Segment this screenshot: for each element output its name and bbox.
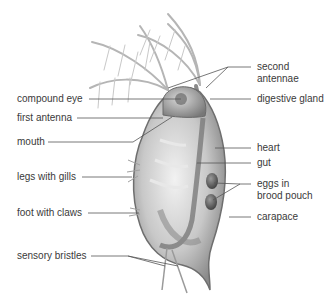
label-heart: heart [257,142,280,154]
label-eggs-line2: brood pouch [257,190,313,202]
label-mouth: mouth [17,136,45,148]
label-eggs-in-brood-pouch: eggs in brood pouch [257,178,313,202]
label-compound-eye: compound eye [17,93,83,105]
label-second-antennae-line1: second [257,61,299,73]
label-first-antenna: first antenna [17,112,72,124]
label-carapace: carapace [257,211,298,223]
label-gut: gut [257,157,271,169]
label-second-antennae: second antennae [257,61,299,85]
egg-art [206,173,218,189]
label-legs-with-gills: legs with gills [17,171,76,183]
label-digestive-gland: digestive gland [257,93,324,105]
daphnia-diagram: compound eye first antenna mouth legs wi… [0,0,333,303]
label-second-antennae-line2: antennae [257,73,299,85]
label-eggs-line1: eggs in [257,178,313,190]
label-foot-with-claws: foot with claws [17,207,82,219]
egg-art [205,194,217,210]
label-sensory-bristles: sensory bristles [17,250,86,262]
